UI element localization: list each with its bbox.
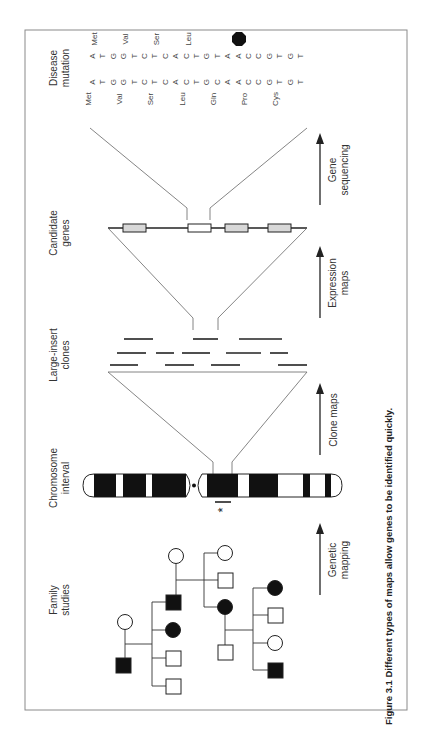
arrow-label-expression-maps: Expressionmaps [327, 248, 353, 318]
stage-label-chromosome-interval: Chromosomeinterval [48, 443, 74, 513]
normal-codon: Cys [271, 89, 283, 109]
candidate-genes-map [108, 224, 307, 232]
gene-box-candidate [188, 224, 211, 232]
female-affected [166, 623, 181, 638]
female-unaffected [169, 549, 184, 564]
stage-label-large-insert-clones: Large-insertclones [48, 320, 74, 390]
figure-frame [25, 30, 407, 710]
normal-codon: Leu [178, 89, 190, 109]
normal-codon: Ser [146, 89, 158, 109]
normal-codon: Gln [209, 89, 221, 109]
stop-sign-icon [232, 32, 246, 46]
workflow-arrows [316, 133, 324, 595]
pedigree-individuals [116, 546, 283, 695]
genes-funnel [108, 228, 307, 330]
mutant-codon: Val [121, 29, 133, 49]
female-affected [218, 600, 233, 615]
male-affected [166, 595, 181, 610]
normal-codon: Pro [240, 89, 252, 109]
mutant-codon: Leu [184, 29, 196, 49]
female-unaffected [268, 636, 283, 651]
female-affected [268, 581, 283, 596]
interval-asterisk: * [216, 504, 230, 516]
male-affected [116, 658, 131, 673]
maps-figure: Diseasemutation Candidategenes Large-ins… [0, 0, 423, 753]
male-unaffected [166, 679, 181, 694]
mutant-codon: Met [90, 29, 102, 49]
clones-funnel [108, 372, 307, 474]
male-unaffected [218, 573, 233, 588]
male-unaffected [218, 645, 233, 660]
mutant-codon: Ser [152, 29, 164, 49]
stage-label-disease-mutation: Diseasemutation [48, 33, 74, 103]
male-affected [268, 663, 283, 678]
gene-box [123, 224, 146, 232]
large-insert-clones [110, 339, 307, 365]
mutant-base: T [296, 46, 308, 66]
chromosome-ideogram [83, 474, 342, 502]
normal-base: T [296, 72, 308, 92]
male-unaffected [268, 608, 283, 623]
arrow-label-clone-maps: Clone maps [328, 385, 342, 455]
stage-label-candidate-genes: Candidategenes [48, 198, 74, 268]
sequence-funnel [90, 128, 307, 220]
stage-label-family-studies: Familystudies [48, 565, 74, 635]
figure-caption: Figure 3.1 Different types of maps allow… [384, 425, 398, 725]
arrow-label-gene-sequencing: Genesequencing [327, 135, 353, 205]
female-unaffected [118, 615, 133, 630]
family-pedigree [125, 553, 268, 686]
arrow-label-genetic-mapping: Geneticmapping [327, 525, 353, 595]
male-unaffected [166, 651, 181, 666]
normal-codon: Val [115, 89, 127, 109]
gene-box [225, 224, 248, 232]
normal-codon: Met [84, 89, 96, 109]
female-unaffected [218, 546, 233, 561]
stop-label: STOP [215, 29, 227, 49]
gene-box [268, 224, 291, 232]
